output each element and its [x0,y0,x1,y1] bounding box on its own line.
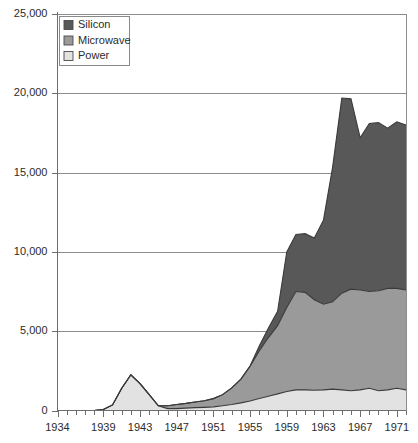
x-axis-label-1963: 1963 [311,421,335,433]
x-axis-label-1943: 1943 [128,421,152,433]
chart-canvas: 25,00020,00015,00010,0005,0000 193419391… [0,0,418,443]
x-axis-label-1955: 1955 [238,421,262,433]
legend-label-silicon: Silicon [78,18,110,30]
legend-swatch-microwave [64,36,73,45]
legend-label-microwave: Microwave [78,34,131,46]
x-axis-label-1934: 1934 [45,421,69,433]
y-axis-label-5000: 5,000 [20,324,48,336]
chart-legend: SiliconMicrowavePower [60,17,131,66]
x-axis-label-1951: 1951 [201,421,225,433]
y-axis-label-15000: 15,000 [14,166,48,178]
y-axis-label-20000: 20,000 [14,86,48,98]
y-axis-label-0: 0 [41,404,47,416]
x-axis-label-1939: 1939 [91,421,115,433]
area-chart: 25,00020,00015,00010,0005,0000 193419391… [0,0,418,443]
legend-swatch-power [64,52,73,61]
legend-swatch-silicon [64,21,73,30]
x-axis-label-1959: 1959 [275,421,299,433]
x-axis-label-1947: 1947 [164,421,188,433]
y-axis-label-25000: 25,000 [14,7,48,19]
x-axis-label-1967: 1967 [348,421,372,433]
x-axis-label-1971: 1971 [385,421,409,433]
legend-label-power: Power [78,49,110,61]
y-axis-label-10000: 10,000 [14,245,48,257]
